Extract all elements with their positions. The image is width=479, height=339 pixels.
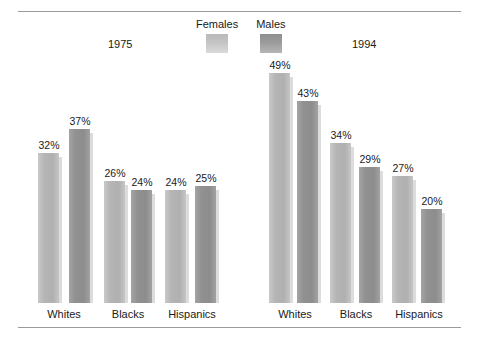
bar-rect [269,73,290,303]
category-label-1994-blacks: Blacks [340,308,372,320]
bottom-divider-rule [18,327,461,328]
bar-value-label: 26% [100,167,130,179]
bar-rect [330,143,351,303]
category-label-1994-whites: Whites [278,308,312,320]
category-label-1975-hispanics: Hispanics [168,308,216,320]
bar-value-label: 34% [326,129,356,141]
grouped-bar-chart: Females Males 1975 1994 32% 37% 26% 24% [0,0,479,339]
bar-rect [69,129,90,303]
bar-rect [359,167,380,303]
bar-value-label: 20% [417,195,447,207]
bar-rect [131,190,152,303]
bar-rect [392,176,413,303]
bar-value-label: 29% [355,153,385,165]
bar-value-label: 37% [65,115,95,127]
bar-value-label: 49% [265,59,295,71]
category-label-1975-blacks: Blacks [112,308,144,320]
bar-value-label: 24% [161,176,191,188]
bar-value-label: 25% [191,172,221,184]
category-label-1975-whites: Whites [47,308,81,320]
bar-value-label: 27% [388,162,418,174]
bar-rect [421,209,442,303]
bar-rect [297,101,318,303]
plot-area: 32% 37% 26% 24% 24% 25% 49% 43% [0,0,479,303]
bar-rect [165,190,186,303]
bar-rect [104,181,125,303]
bar-rect [195,186,216,303]
bar-value-label: 32% [34,139,64,151]
bar-value-label: 43% [293,87,323,99]
category-label-1994-hispanics: Hispanics [395,308,443,320]
bar-value-label: 24% [127,176,157,188]
bar-rect [38,153,59,303]
